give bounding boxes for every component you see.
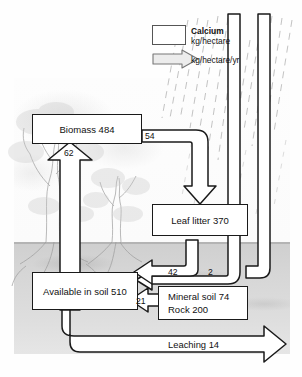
flux-2-label: 2 (208, 267, 213, 277)
legend-pool-unit: kg/hectare (191, 36, 230, 46)
flux-54-label: 54 (145, 131, 155, 141)
pool-leaf-litter-label: Leaf litter 370 (171, 215, 229, 226)
pool-mineral-soil-label: Mineral soil 74 (168, 290, 229, 303)
flux-leaching-label: Leaching 14 (168, 339, 219, 350)
calcium-cycle-diagram: Biomass 484 Leaf litter 370 Available in… (0, 0, 302, 377)
pool-mineral-soil-rock[interactable]: Mineral soil 74 Rock 200 (158, 286, 248, 320)
pool-rock-label: Rock 200 (168, 303, 208, 316)
pool-available-in-soil[interactable]: Available in soil 510 (32, 272, 138, 310)
legend-flux-unit: kg/hectare/yr (191, 55, 239, 65)
pool-leaf-litter[interactable]: Leaf litter 370 (152, 204, 248, 236)
precipitation-input-channel (246, 14, 270, 278)
flux-54-channel (142, 130, 216, 204)
legend-title: Calcium (191, 26, 224, 36)
flux-21-label: 21 (136, 296, 146, 306)
flux-channels (0, 0, 302, 377)
legend-pool-swatch (152, 25, 186, 45)
pool-biomass[interactable]: Biomass 484 (32, 114, 142, 144)
flux-42-label: 42 (168, 267, 178, 277)
pool-available-in-soil-label: Available in soil 510 (43, 286, 127, 297)
flux-62-label: 62 (64, 148, 74, 158)
pool-biomass-label: Biomass 484 (60, 124, 115, 135)
